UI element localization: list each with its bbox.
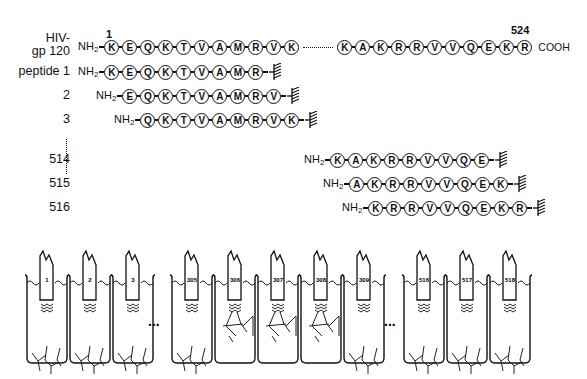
sequence-gap	[303, 47, 333, 48]
end-position: 524	[511, 24, 529, 36]
well-309: 309	[342, 251, 386, 374]
bond	[281, 95, 286, 96]
amino-acid: K	[104, 65, 119, 80]
amino-acid: Q	[140, 65, 155, 80]
amino-acid: K	[368, 201, 383, 216]
well-518: 518	[488, 251, 532, 374]
amino-acid: R	[384, 153, 399, 168]
amino-acid: T	[176, 65, 191, 80]
amino-acid: Q	[140, 89, 155, 104]
peptide-label: 3	[0, 113, 70, 126]
solid-support-icon	[533, 199, 547, 217]
n-terminus: NH2	[304, 153, 324, 167]
amino-acid: Q	[457, 177, 472, 192]
amino-acid: V	[194, 40, 209, 55]
solid-support-icon	[305, 111, 319, 129]
amino-acid: R	[512, 201, 527, 216]
n-terminus: NH2	[342, 201, 362, 215]
solid-support-icon	[287, 87, 301, 105]
solid-support-icon	[269, 63, 283, 81]
amino-acid: R	[409, 40, 424, 55]
peptide-label: 515	[0, 177, 70, 190]
amino-acid: T	[176, 113, 191, 128]
amino-acid: R	[248, 113, 263, 128]
amino-acid: V	[427, 40, 442, 55]
amino-acid: K	[330, 153, 345, 168]
amino-acid: A	[212, 89, 227, 104]
ellipsis: ...	[384, 313, 396, 329]
amino-acid: V	[438, 153, 453, 168]
amino-acid: V	[420, 153, 435, 168]
amino-acid: R	[248, 40, 263, 55]
well-label: 518	[505, 277, 516, 283]
amino-acid: T	[176, 89, 191, 104]
peptide-peptide-1: NH2KEQKTVAMR	[78, 63, 283, 81]
well-516: 516	[402, 251, 446, 374]
amino-acid: M	[230, 40, 245, 55]
amino-acid: V	[421, 177, 436, 192]
amino-acid: V	[194, 113, 209, 128]
amino-acid: K	[284, 113, 299, 128]
well-306: 306	[213, 251, 257, 363]
amino-acid: K	[493, 177, 508, 192]
well-305: 305	[170, 251, 214, 374]
n-terminus: NH2	[78, 40, 98, 54]
amino-acid: K	[499, 40, 514, 55]
amino-acid: M	[230, 113, 245, 128]
well-label: 305	[187, 277, 198, 283]
amino-acid: E	[122, 65, 137, 80]
amino-acid: K	[104, 40, 119, 55]
amino-acid: A	[348, 153, 363, 168]
n-terminus: NH2	[78, 65, 98, 79]
bond	[489, 159, 494, 160]
amino-acid: K	[158, 89, 173, 104]
amino-acid: A	[212, 113, 227, 128]
amino-acid: V	[194, 89, 209, 104]
amino-acid: V	[266, 89, 281, 104]
n-terminus: NH2	[323, 177, 343, 191]
amino-acid: Q	[456, 153, 471, 168]
well-label: 308	[316, 277, 327, 283]
well-308: 308	[299, 251, 343, 363]
amino-acid: Q	[140, 40, 155, 55]
amino-acid: A	[212, 40, 227, 55]
amino-acid: K	[158, 113, 173, 128]
amino-acid: T	[176, 40, 191, 55]
well-label: 309	[359, 277, 370, 283]
amino-acid: R	[386, 201, 401, 216]
well-label: 307	[273, 277, 284, 283]
peptide-label: 516	[0, 201, 70, 214]
amino-acid: R	[385, 177, 400, 192]
peptide-515: NH2AKRRVVQEK	[323, 175, 528, 193]
protein-label: HIV- gp 120	[20, 32, 70, 58]
bond	[527, 207, 532, 208]
amino-acid: V	[422, 201, 437, 216]
peptide-514: NH2KAKRRVVQE	[304, 151, 509, 169]
well-517: 517	[445, 251, 489, 374]
peptide-2: NH2EQKTVAMRV	[96, 87, 301, 105]
amino-acid: R	[517, 40, 532, 55]
amino-acid: K	[373, 40, 388, 55]
amino-acid: R	[248, 89, 263, 104]
n-terminus: NH2	[114, 113, 134, 127]
amino-acid: E	[474, 153, 489, 168]
gp120-sequence: NH2KEQKTVAMRVKKAKRRVVQEKRCOOH	[78, 38, 570, 56]
solid-support-icon	[514, 175, 528, 193]
bond	[263, 71, 268, 72]
amino-acid: Q	[458, 201, 473, 216]
protein-label-line2: gp 120	[20, 45, 70, 58]
amino-acid: K	[284, 40, 299, 55]
amino-acid: M	[230, 65, 245, 80]
amino-acid: V	[440, 201, 455, 216]
amino-acid: V	[439, 177, 454, 192]
amino-acid: K	[337, 40, 352, 55]
well-2: 2	[68, 251, 112, 374]
amino-acid: E	[122, 89, 137, 104]
amino-acid: K	[158, 65, 173, 80]
solid-support-icon	[495, 151, 509, 169]
peptide-label: peptide 1	[0, 65, 70, 78]
bond	[299, 119, 304, 120]
well-1: 1	[25, 251, 69, 374]
peptide-3: NH2QKTVAMRVK	[114, 111, 319, 129]
amino-acid: A	[355, 40, 370, 55]
